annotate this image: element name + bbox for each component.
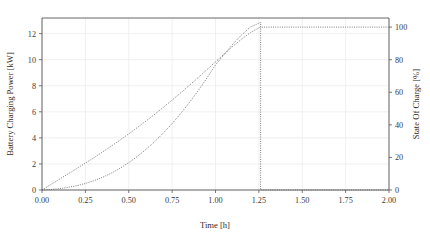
y-tick-label-left: 4 — [32, 134, 36, 143]
y-tick-label-left: 0 — [32, 186, 36, 195]
x-tick-label: 0.25 — [78, 196, 92, 205]
y-tick-label-left: 6 — [32, 108, 36, 117]
y-tick-label-right: 60 — [395, 88, 403, 97]
y-tick-label-left: 2 — [32, 160, 36, 169]
y-axis-title-right: State Of Charge [%] — [411, 69, 421, 139]
x-tick-label: 1.25 — [252, 196, 266, 205]
battery-charging-chart: 0.000.250.500.751.001.251.501.752.000246… — [0, 0, 430, 235]
y-tick-label-left: 12 — [28, 30, 36, 39]
y-axis-title-left: Battery Charging Power [kW] — [5, 52, 15, 156]
x-tick-label: 2.00 — [382, 196, 396, 205]
y-tick-label-left: 8 — [32, 82, 36, 91]
y-tick-label-right: 80 — [395, 56, 403, 65]
axis-tick-labels: 0.000.250.500.751.001.251.501.752.000246… — [28, 23, 407, 205]
x-tick-label: 0.00 — [35, 196, 49, 205]
x-axis-title: Time [h] — [200, 220, 230, 230]
y-tick-label-left: 10 — [28, 56, 36, 65]
x-tick-label: 0.75 — [165, 196, 179, 205]
x-tick-label: 1.75 — [338, 196, 352, 205]
gridlines — [42, 18, 389, 190]
y-tick-label-right: 40 — [395, 121, 403, 130]
x-tick-label: 1.50 — [295, 196, 309, 205]
y-tick-label-right: 0 — [395, 186, 399, 195]
x-tick-label: 1.00 — [208, 196, 222, 205]
chart-figure: 0.000.250.500.751.001.251.501.752.000246… — [0, 0, 430, 235]
x-tick-label: 0.50 — [122, 196, 136, 205]
y-tick-label-right: 100 — [395, 23, 407, 32]
y-tick-label-right: 20 — [395, 153, 403, 162]
